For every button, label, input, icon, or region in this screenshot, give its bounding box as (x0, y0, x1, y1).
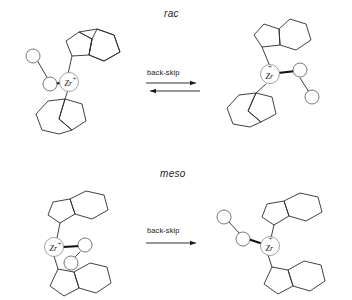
chain-rac-product (278, 63, 319, 104)
metal-charge-meso-reactant: + (58, 240, 62, 248)
metal-charge-rac-reactant: + (73, 75, 77, 83)
metal-center-meso-product: Zr + (261, 235, 280, 256)
metal-label-meso-product: Zr (266, 244, 274, 253)
structure-rac-reactant: Zr + (26, 29, 120, 134)
reaction-arrow-meso (146, 241, 196, 245)
indenyl-lower-meso-product (264, 255, 325, 294)
chain-meso-reactant (63, 238, 92, 270)
structures-canvas: Zr + (0, 0, 352, 300)
indenyl-lower-rac-reactant (36, 90, 86, 134)
metal-charge-meso-product: + (269, 235, 273, 243)
structure-rac-product: Zr + (227, 19, 319, 127)
indenyl-upper-meso-reactant (48, 191, 108, 238)
metal-label-rac-product: Zr (266, 72, 274, 81)
reaction-arrow-rac (146, 81, 200, 93)
arrow-forward-rac (146, 81, 196, 85)
reaction-scheme: rac meso back-skip back-skip (0, 0, 352, 300)
indenyl-lower-meso-reactant (50, 256, 111, 296)
metal-charge-rac-product: + (268, 63, 272, 71)
arrow-reverse-rac (150, 89, 200, 93)
indenyl-upper-rac-reactant (66, 29, 120, 74)
structure-meso-product: Zr + (217, 193, 325, 294)
indenyl-upper-meso-product (262, 193, 322, 238)
metal-center-meso-reactant: Zr + (45, 238, 64, 257)
chain-meso-product (217, 210, 260, 246)
chain-rac-reactant (26, 49, 60, 91)
metal-center-rac-reactant: Zr + (60, 73, 79, 92)
structure-meso-reactant: Zr + (45, 191, 112, 296)
metal-center-rac-product: Zr + (261, 63, 280, 84)
indenyl-lower-rac-product (227, 84, 276, 127)
indenyl-upper-rac-product (254, 19, 311, 64)
